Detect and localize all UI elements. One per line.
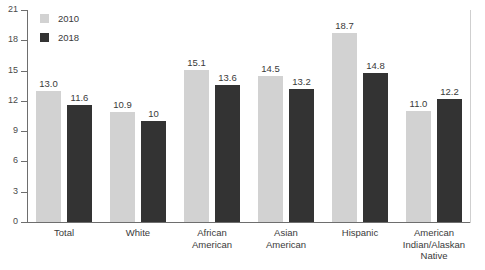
- bar-chart: 036912151821 20102018 13.011.610.91015.1…: [0, 0, 485, 270]
- bar-value-label: 15.1: [176, 58, 217, 68]
- bar-value-label: 13.0: [28, 79, 69, 89]
- bar-value-label: 12.2: [429, 87, 470, 97]
- bar-value-label: 11.0: [398, 99, 439, 109]
- x-axis-category-line: American: [389, 227, 479, 239]
- bar-2010-American Indian/Alaskan Native[interactable]: [406, 111, 431, 222]
- bar-2018-Hispanic[interactable]: [363, 73, 388, 222]
- bar-2018-Asian American[interactable]: [289, 89, 314, 222]
- bar-value-label: 14.5: [250, 64, 291, 74]
- bar-value-label: 13.2: [281, 77, 322, 87]
- bar-value-label: 18.7: [324, 21, 365, 31]
- bar-2010-Total[interactable]: [36, 91, 61, 222]
- bar-2018-African American[interactable]: [215, 85, 240, 222]
- bar-2010-Asian American[interactable]: [258, 76, 283, 222]
- x-axis-category-line: Native: [389, 250, 479, 262]
- bar-2010-Hispanic[interactable]: [332, 33, 357, 222]
- x-axis-category-line: American: [241, 239, 331, 251]
- bar-value-label: 10: [133, 109, 174, 119]
- x-axis-category-label: AmericanIndian/AlaskanNative: [389, 227, 479, 262]
- bar-2018-White[interactable]: [141, 121, 166, 222]
- bar-2018-American Indian/Alaskan Native[interactable]: [437, 99, 462, 222]
- bar-2018-Total[interactable]: [67, 105, 92, 222]
- bar-value-label: 11.6: [59, 93, 100, 103]
- bar-2010-African American[interactable]: [184, 70, 209, 222]
- x-axis-category-line: Indian/Alaskan: [389, 239, 479, 251]
- bar-value-label: 14.8: [355, 61, 396, 71]
- bar-2010-White[interactable]: [110, 112, 135, 222]
- bar-value-label: 13.6: [207, 73, 248, 83]
